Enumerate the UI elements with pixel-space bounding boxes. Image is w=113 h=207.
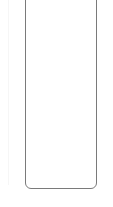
margin-divider [8,0,9,185]
phone-frame [25,0,97,189]
blank-screen [27,0,95,187]
